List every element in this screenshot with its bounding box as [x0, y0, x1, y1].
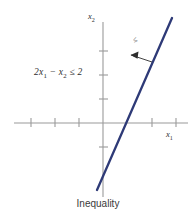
half-plane-arrow [131, 52, 153, 63]
y-axis-label: x2 [88, 12, 95, 23]
x-axis-label: x1 [166, 130, 173, 141]
inequality-figure: 2x1 − x2 ≤ 2 x2 x1 ≤ Inequality [0, 0, 196, 218]
figure-caption: Inequality [0, 199, 196, 209]
plot-area [0, 0, 196, 218]
inequality-expression: 2x1 − x2 ≤ 2 [34, 68, 82, 80]
